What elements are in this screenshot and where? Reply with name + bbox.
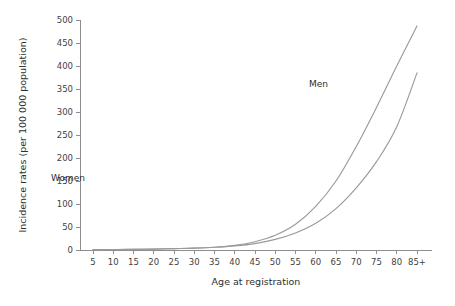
x-tick-label: 75 (371, 257, 382, 267)
x-tick-label: 20 (148, 257, 159, 267)
x-tick-label: 50 (270, 257, 281, 267)
x-tick-label: 15 (128, 257, 139, 267)
x-axis-title: Age at registration (212, 276, 301, 287)
x-tick-label: 40 (229, 257, 240, 267)
series-label-men: Men (309, 79, 328, 89)
y-tick-label: 400 (57, 61, 73, 71)
x-tick-label: 5 (90, 257, 95, 267)
y-tick-label: 500 (57, 15, 73, 25)
series-annotations: MenWomen (51, 79, 328, 183)
x-tick-label: 10 (108, 257, 119, 267)
y-axis-ticks: 050100150200250300350400450500 (57, 15, 80, 255)
x-tick-label: 45 (250, 257, 261, 267)
y-tick-label: 200 (57, 153, 73, 163)
y-tick-label: 50 (62, 222, 73, 232)
x-tick-label: 25 (169, 257, 180, 267)
incidence-rates-chart: 050100150200250300350400450500 510152025… (0, 0, 455, 306)
x-tick-label: 60 (310, 257, 321, 267)
y-axis-group: 050100150200250300350400450500 (57, 15, 80, 255)
x-tick-label: 80 (391, 257, 402, 267)
x-tick-label: 30 (189, 257, 200, 267)
series-line-men (93, 26, 417, 250)
chart-canvas: 050100150200250300350400450500 510152025… (0, 0, 455, 306)
y-tick-label: 450 (57, 38, 73, 48)
y-tick-label: 350 (57, 84, 73, 94)
y-tick-label: 250 (57, 130, 73, 140)
x-tick-label: 65 (331, 257, 342, 267)
x-tick-label: 70 (351, 257, 362, 267)
y-tick-label: 0 (68, 245, 73, 255)
series-line-women (93, 73, 417, 250)
y-tick-label: 100 (57, 199, 73, 209)
x-tick-label: 85+ (408, 257, 426, 267)
x-tick-label: 35 (209, 257, 220, 267)
y-axis-title: Incidence rates (per 100 000 population) (17, 37, 28, 232)
x-tick-label: 55 (290, 257, 301, 267)
series-lines (93, 26, 417, 250)
y-tick-label: 300 (57, 107, 73, 117)
series-label-women: Women (51, 173, 85, 183)
x-axis-group: 510152025303540455055606570758085+ (80, 250, 432, 267)
x-axis-ticks: 510152025303540455055606570758085+ (90, 250, 426, 267)
